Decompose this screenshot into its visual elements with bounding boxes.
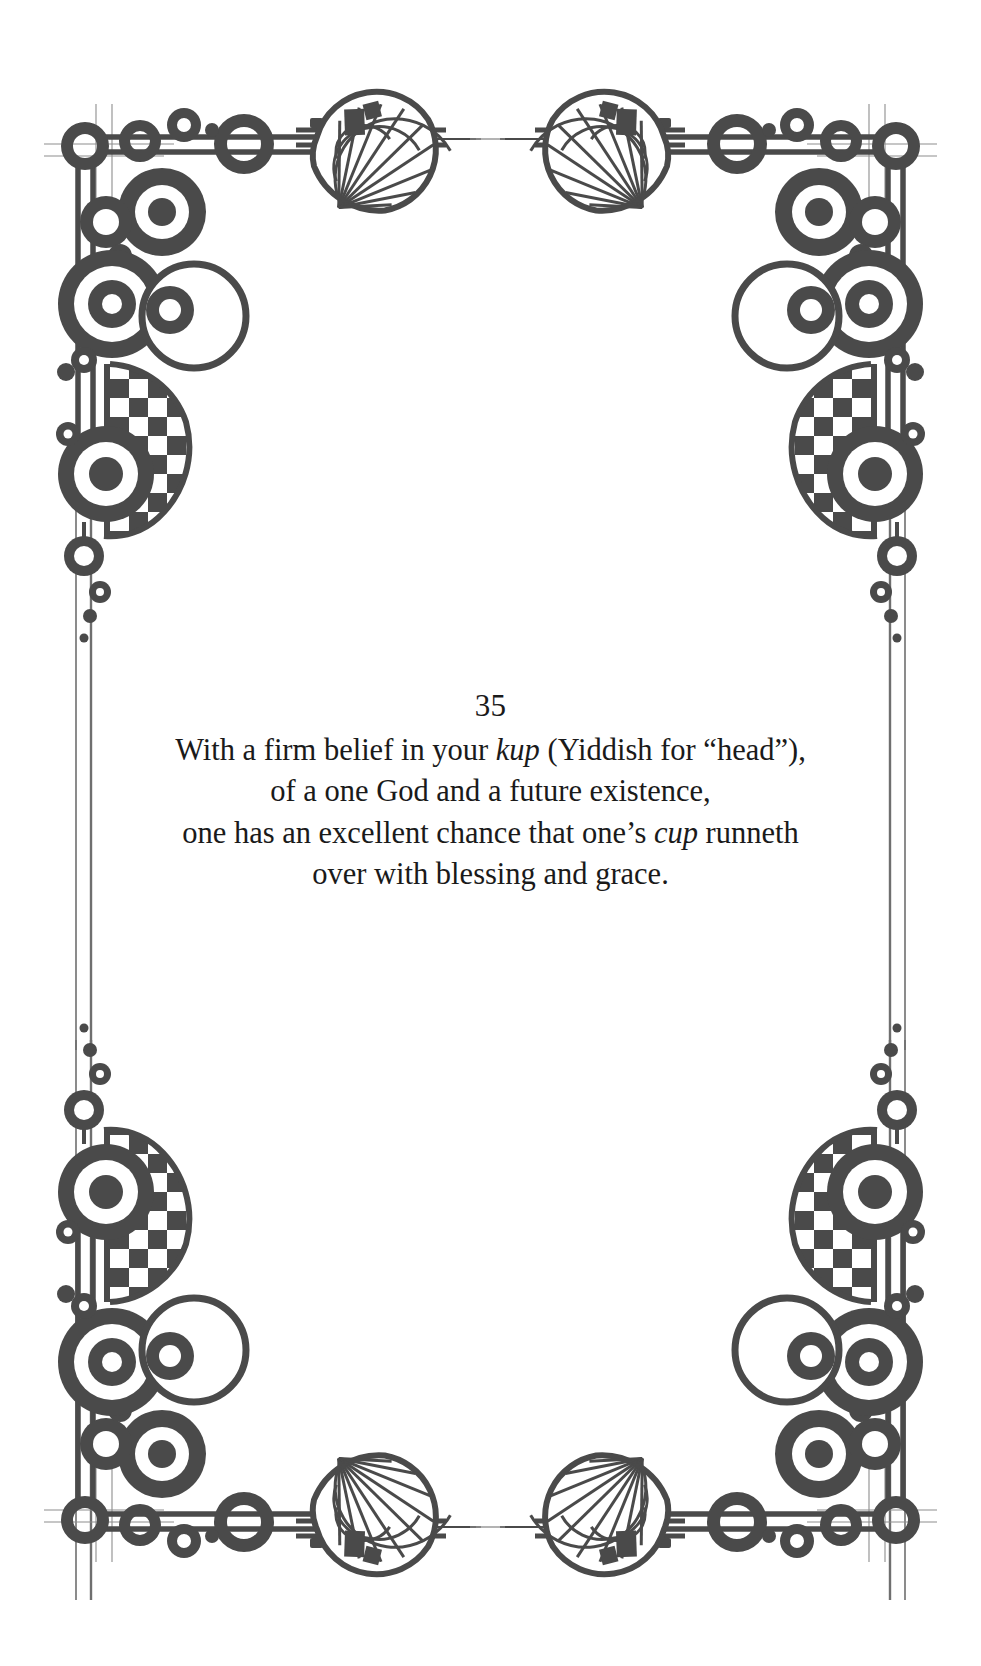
verse-line-1-italic: kup — [496, 733, 540, 767]
verse-line-2-before: of a one God and a future existence, — [270, 774, 710, 808]
corner-ornament-bottom-right — [520, 1024, 937, 1590]
right-side-rule — [890, 490, 905, 1050]
corner-ornament-top-left — [44, 76, 461, 642]
verse-line-1: With a firm belief in your kup (Yiddish … — [131, 730, 851, 771]
top-rule-right-segment — [470, 115, 685, 161]
verse-line-3: one has an excellent chance that one’s c… — [131, 813, 851, 854]
verse-line-2: of a one God and a future existence, — [131, 771, 851, 812]
verse-block: 35 With a firm belief in your kup (Yiddi… — [131, 688, 851, 896]
corner-ornament-top-right — [520, 76, 937, 642]
verse-line-4: over with blessing and grace. — [131, 854, 851, 895]
verse-number: 35 — [131, 688, 851, 724]
verse-line-1-before: With a firm belief in your — [175, 733, 496, 767]
bottom-rule-left-segment — [296, 1505, 511, 1551]
corner-ornament-bottom-left — [44, 1024, 461, 1590]
verse-line-3-before: one has an excellent chance that one’s — [182, 816, 654, 850]
verse-line-4-before: over with blessing and grace. — [312, 857, 669, 891]
bottom-rule-right-segment — [470, 1505, 685, 1551]
verse-line-3-italic: cup — [654, 816, 698, 850]
verse-line-3-after: runneth — [698, 816, 799, 850]
verse-line-1-after: (Yiddish for “head”), — [540, 733, 806, 767]
left-side-rule — [76, 490, 91, 1050]
book-page: 35 With a firm belief in your kup (Yiddi… — [0, 0, 981, 1666]
top-rule-left-segment — [296, 115, 511, 161]
